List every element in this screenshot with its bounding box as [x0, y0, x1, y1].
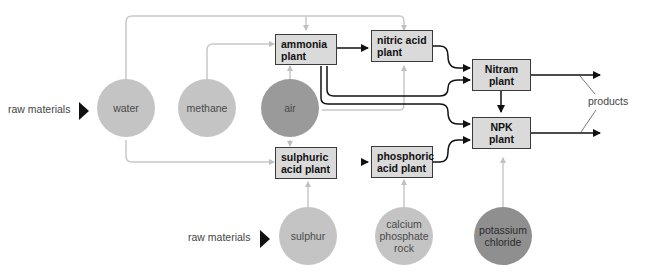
raw-materials-arrow-icon: [79, 102, 89, 120]
nitram-plant-box: Nitram plant: [472, 59, 531, 91]
nitric-acid-plant-box: nitric acid plant: [371, 30, 433, 62]
potassium-chloride-circle: potassium chloride: [474, 207, 532, 265]
ammonia-to-npk-line: [321, 66, 470, 124]
calcium-phosphate-rock-circle: calcium phosphate rock: [375, 207, 433, 265]
phosphoric-acid-plant-box: phosphoric acid plant: [371, 146, 433, 178]
raw-materials-label: raw materials: [8, 103, 70, 115]
phosphoric-to-npk-line: [432, 140, 470, 162]
sulphuric-acid-plant-box: sulphuric acid plant: [275, 147, 337, 179]
methane-circle: methane: [178, 79, 236, 137]
air-circle: air: [261, 79, 319, 137]
nitric-to-nitram-line: [432, 46, 470, 68]
raw-materials-label: raw materials: [188, 231, 250, 243]
water-circle: water: [97, 79, 155, 137]
products-callout-line: [580, 76, 595, 94]
sulphur-circle: sulphur: [279, 207, 337, 265]
products-label: products: [588, 95, 628, 107]
methane-to-ammonia-line: [207, 44, 274, 80]
water-to-sulphuric-line: [126, 140, 274, 162]
npk-plant-box: NPK plant: [472, 117, 531, 149]
ammonia-to-nitram-line: [327, 66, 470, 96]
ammonia-plant-box: ammonia plant: [275, 34, 337, 65]
products-callout-line: [581, 110, 596, 132]
raw-materials-arrow-icon: [260, 230, 270, 248]
